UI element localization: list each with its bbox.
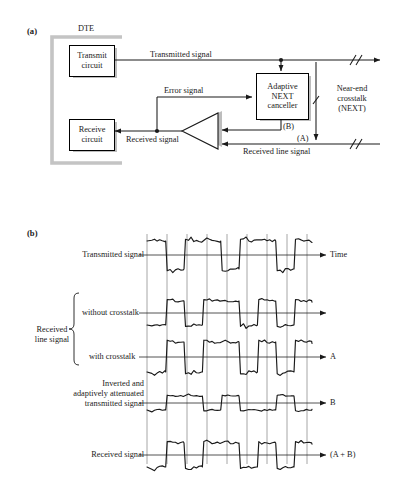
amplifier-symbol — [0, 0, 404, 483]
figure-next-canceller: (a) DTE Transmit circuit Receive circuit… — [0, 0, 404, 483]
